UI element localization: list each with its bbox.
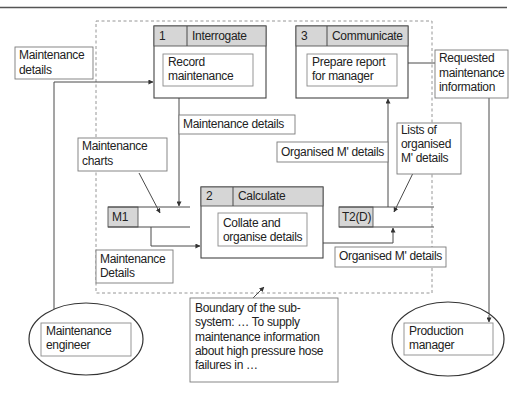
label-text: Organised M' details (339, 249, 442, 263)
flow-line-calculate-to-t2 (323, 228, 393, 243)
external-name-line: manager (409, 338, 455, 352)
data-store-m1: M1 (108, 207, 190, 227)
process-name: Interrogate (192, 29, 247, 43)
process-1-interrogate: 1 Interrogate Record maintenance (154, 26, 266, 98)
process-3-communicate: 3 Communicate Prepare report for manager (296, 26, 408, 98)
process-number: 2 (206, 189, 213, 203)
process-number: 1 (159, 29, 166, 43)
external-name-line: Production (409, 324, 463, 338)
label-line: M' details (401, 151, 449, 165)
process-task-line: Collate and (223, 216, 280, 230)
flow-label-interrogate-maintenance-details: Maintenance details (179, 115, 295, 134)
process-name: Calculate (238, 189, 286, 203)
external-production-manager: Production manager (392, 302, 504, 376)
flow-label-m1-maintenance-details: Maintenance Details (96, 250, 173, 283)
external-maintenance-engineer: Maintenance engineer (29, 303, 143, 375)
pointer-note-to-boundary (253, 287, 264, 298)
flow-line-m1-to-calculate (151, 227, 200, 246)
process-task-line: organise details (223, 230, 303, 244)
note-line: maintenance information (195, 330, 320, 344)
process-task-line: maintenance (168, 69, 234, 83)
flow-label-lists-of-organised-details: Lists of organised M' details (397, 123, 461, 174)
label-line: details (19, 63, 52, 77)
note-line: about high pressure hose (195, 344, 324, 358)
data-flow-diagram: 1 Interrogate Record maintenance 3 Commu… (0, 0, 525, 397)
process-task-line: Record (168, 55, 205, 69)
label-line: maintenance (439, 66, 505, 80)
label-line: organised (401, 137, 451, 151)
note-line: failures in … (195, 358, 258, 372)
process-name: Communicate (332, 29, 403, 43)
store-id: M1 (112, 210, 129, 224)
process-number: 3 (301, 29, 308, 43)
flow-label-organised-details-upper: Organised M' details (277, 142, 388, 162)
label-line: Maintenance (19, 48, 85, 62)
flow-label-maintenance-charts: Maintenance charts (78, 138, 167, 171)
process-task-line: for manager (312, 69, 374, 83)
label-line: information (439, 80, 495, 94)
flow-label-engineer-maintenance-details: Maintenance details (15, 47, 93, 79)
data-store-t2d: T2(D) (339, 207, 434, 227)
label-line: Lists of (401, 123, 438, 137)
process-2-calculate: 2 Calculate Collate and organise details (201, 187, 323, 258)
label-line: charts (82, 154, 113, 168)
store-id: T2(D) (342, 210, 371, 224)
external-name-line: Maintenance (46, 324, 112, 338)
label-line: Details (100, 266, 135, 280)
label-line: Maintenance (100, 252, 166, 266)
label-text: Organised M' details (281, 145, 384, 159)
label-line: Requested (439, 51, 494, 65)
note-line: Boundary of the sub- (195, 301, 301, 315)
flow-label-organised-details-lower: Organised M' details (335, 247, 446, 267)
note-line: system: … To supply (195, 315, 300, 329)
label-line: Maintenance (82, 139, 148, 153)
external-name-line: engineer (46, 338, 91, 352)
process-task-line: Prepare report (312, 55, 386, 69)
label-text: Maintenance details (183, 117, 284, 131)
boundary-note: Boundary of the sub- system: … To supply… (190, 298, 338, 382)
flow-label-requested-maintenance-information: Requested maintenance information (435, 50, 508, 98)
